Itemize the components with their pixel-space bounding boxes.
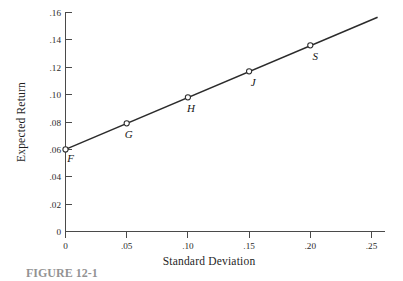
x-tick-label-15: .15 (243, 241, 255, 251)
x-tick-label-10: .10 (182, 241, 194, 251)
x-axis-title: Standard Deviation (163, 255, 256, 267)
figure-caption: FIGURE 12-1 (26, 268, 98, 281)
y-tick-label-08: .08 (50, 118, 62, 128)
data-point-label-s: S (313, 50, 319, 62)
y-tick-label-0: 0 (56, 227, 61, 237)
data-point-j[interactable] (247, 69, 252, 74)
y-tick-label-14: .14 (50, 35, 62, 45)
data-point-s[interactable] (308, 43, 313, 48)
y-tick-label-04: .04 (50, 172, 62, 182)
y-tick-label-02: .02 (50, 200, 62, 210)
x-axis-ticks (66, 232, 372, 239)
x-tick-label-20: .20 (305, 241, 317, 251)
capital-market-line (66, 17, 378, 149)
data-point-label-h: H (186, 102, 196, 114)
y-tick-label-10: .10 (50, 90, 62, 100)
figure-caption-clip: FIGURE 12-1 (0, 268, 403, 281)
data-point-group: FGHJS (63, 43, 319, 165)
figure-container: Expected Return Standard Deviation .16 .… (0, 0, 403, 281)
data-point-f[interactable] (63, 147, 68, 152)
x-tick-label-05: .05 (121, 241, 133, 251)
y-axis-tick-labels: .16 .14 .12 .10 .08 .06 .04 .02 0 (50, 8, 62, 237)
x-tick-label-0: 0 (63, 241, 68, 251)
data-point-label-j: J (251, 76, 257, 88)
y-axis-title: Expected Return (15, 82, 28, 162)
x-axis-tick-labels: 0 .05 .10 .15 .20 .25 (63, 241, 377, 251)
y-tick-label-06: .06 (50, 145, 62, 155)
data-point-g[interactable] (124, 121, 129, 126)
data-point-label-f: F (66, 152, 74, 164)
chart-canvas: Expected Return Standard Deviation .16 .… (0, 0, 403, 281)
x-tick-label-25: .25 (366, 241, 378, 251)
y-tick-label-16: .16 (50, 8, 62, 18)
y-tick-label-12: .12 (50, 63, 62, 73)
data-point-label-g: G (125, 128, 133, 140)
data-point-h[interactable] (185, 95, 190, 100)
y-axis-ticks (66, 13, 73, 205)
